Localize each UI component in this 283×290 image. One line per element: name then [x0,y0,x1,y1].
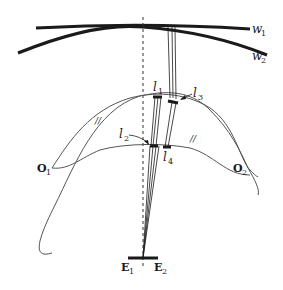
svg-text:2: 2 [162,267,167,276]
svg-text:l: l [163,150,167,164]
hatch-mark-right: // [189,134,197,144]
svg-text:1: 1 [261,29,266,38]
hatch-mark-left: // [94,116,102,126]
label-l3: l 3 [193,86,203,102]
outgoing-rays [143,146,159,258]
lens-outline [39,93,258,255]
arrow-l3-head [180,95,186,100]
label-E1: E 1 [121,261,134,276]
svg-text:2: 2 [124,134,129,143]
svg-text:1: 1 [129,267,134,276]
label-O1: O 1 [37,162,51,177]
lens-upper-surface [52,94,258,176]
incoming-rays [168,27,176,99]
svg-text:1: 1 [158,87,163,96]
svg-text:2: 2 [242,168,247,177]
label-w1: w 1 [252,22,266,38]
segment-l3 [168,101,178,103]
svg-text:3: 3 [198,93,203,102]
svg-text:1: 1 [46,168,51,177]
label-l1: l 1 [153,80,163,96]
label-O2: O 2 [233,162,247,177]
label-l2: l 2 [119,127,129,143]
internal-rays [151,97,176,147]
svg-text:l: l [153,80,157,94]
optical-diagram: // // w 1 w 2 l 1 l 3 l 2 l 4 O 1 O 2 E … [0,0,283,290]
svg-text:l: l [119,127,123,141]
svg-text:l: l [193,86,197,100]
svg-text:2: 2 [261,56,266,65]
label-w2: w 2 [252,49,266,65]
label-l4: l 4 [163,150,173,166]
svg-text:4: 4 [168,157,173,166]
label-E2: E 2 [154,261,167,276]
